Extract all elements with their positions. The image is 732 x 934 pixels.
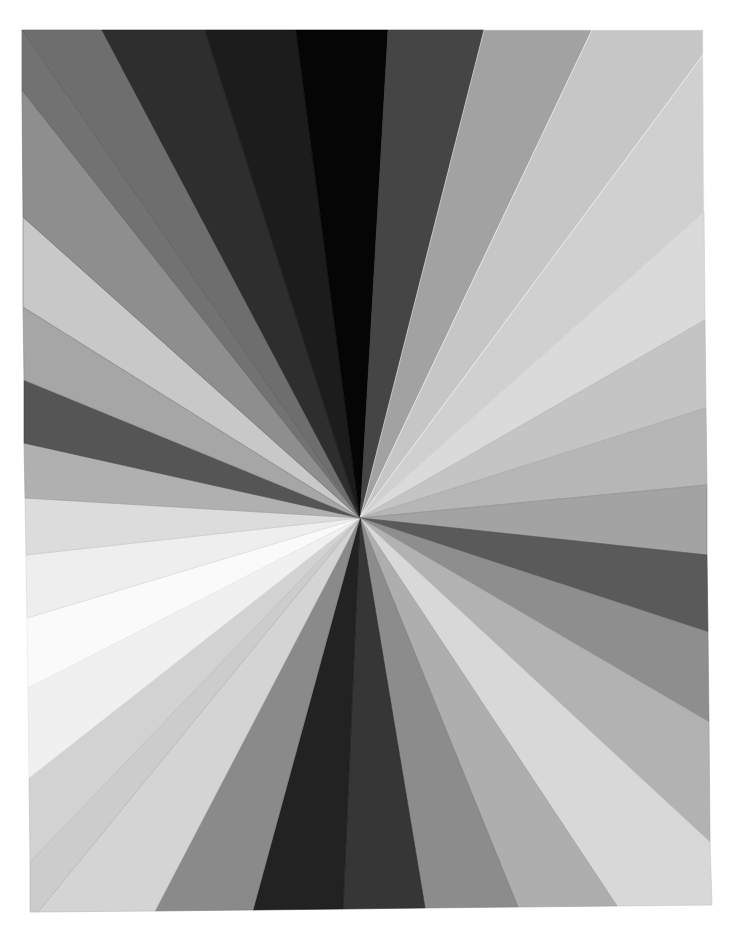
starburst-canvas [0, 0, 732, 934]
paper-wedges [22, 30, 712, 912]
starburst-photo [0, 0, 732, 934]
